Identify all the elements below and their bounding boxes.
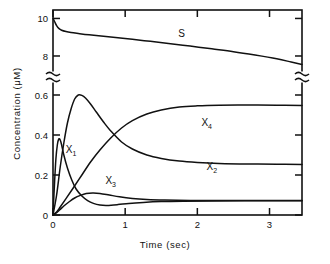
curve-label-S: S [178, 28, 185, 39]
svg-text:3: 3 [267, 219, 272, 230]
svg-text:2: 2 [195, 219, 200, 230]
curve-X4 [53, 105, 302, 215]
axes-frame [53, 10, 302, 215]
svg-text:10: 10 [37, 13, 48, 24]
axis-break-marks [46, 72, 309, 83]
svg-text:8: 8 [43, 51, 48, 62]
tick-marks [53, 10, 302, 215]
curve-label-X3: X3 [105, 175, 116, 188]
data-curves [53, 18, 302, 215]
curve-X2 [53, 95, 302, 215]
concentration-vs-time-figure: 012300.20.40.6810 SX1X2X3X4 Concentratio… [0, 0, 330, 264]
curve-X3 [53, 193, 302, 215]
svg-text:1: 1 [123, 219, 128, 230]
svg-text:0.2: 0.2 [35, 170, 48, 181]
tick-labels: 012300.20.40.6810 [35, 13, 272, 230]
y-axis-title: Concentration (μM) [11, 54, 22, 174]
curve-X1 [53, 139, 302, 215]
x-axis-title: Time (sec) [0, 239, 330, 250]
svg-text:0: 0 [43, 210, 48, 221]
svg-text:0.4: 0.4 [35, 130, 48, 141]
curve-label-X4: X4 [201, 117, 212, 130]
svg-text:0: 0 [50, 219, 55, 230]
curve-S [53, 18, 302, 64]
svg-text:0.6: 0.6 [35, 90, 48, 101]
curve-label-X1: X1 [66, 144, 77, 157]
chart-canvas: 012300.20.40.6810 SX1X2X3X4 [0, 0, 330, 264]
